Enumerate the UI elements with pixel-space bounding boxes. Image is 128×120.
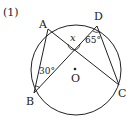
label-b: B [26,95,34,108]
center-dot [74,68,77,71]
angle-label-30: 30° [39,66,55,76]
angle-arc-b [36,86,40,88]
label-d: D [94,10,103,23]
angle-label-65: 65° [85,35,101,45]
segment-ab [34,29,48,93]
label-o: O [71,72,80,85]
label-c: C [118,87,126,100]
geometry-diagram: A D B C O x 65° 30° [0,0,128,120]
label-a: A [38,18,48,31]
angle-label-x: x [70,32,76,43]
